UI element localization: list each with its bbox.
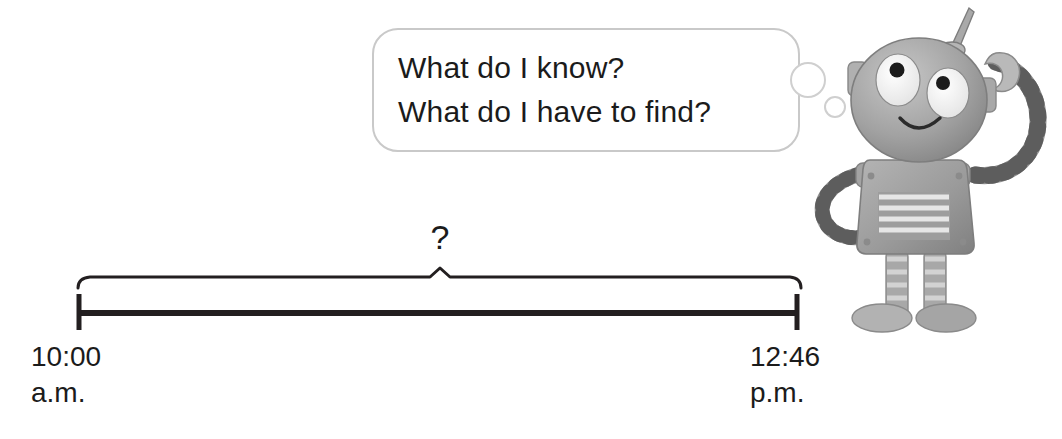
left-eye bbox=[876, 54, 920, 106]
robot-character bbox=[800, 0, 1062, 340]
left-foot bbox=[852, 304, 912, 332]
torso bbox=[857, 160, 974, 254]
unknown-value-question-mark: ? bbox=[418, 218, 462, 256]
right-foot bbox=[916, 304, 976, 332]
vent-panel bbox=[878, 192, 950, 240]
worksheet-canvas: What do I know? What do I have to find? … bbox=[0, 0, 1062, 439]
elapsed-time-brace bbox=[78, 268, 801, 288]
head bbox=[851, 38, 987, 162]
number-line-end-label: 12:46 p.m. bbox=[750, 339, 820, 411]
right-eye bbox=[927, 68, 969, 118]
thought-bubble: What do I know? What do I have to find? bbox=[372, 28, 800, 152]
thought-bubble-text: What do I know? What do I have to find? bbox=[398, 46, 788, 134]
number-line-start-label: 10:00 a.m. bbox=[31, 339, 101, 411]
